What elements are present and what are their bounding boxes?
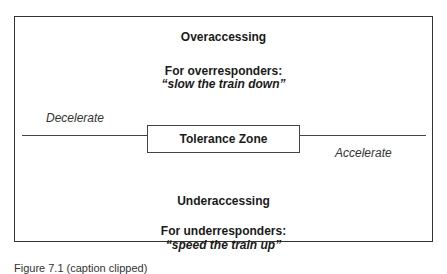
- axis-line-right: [300, 135, 426, 136]
- overresponders-label: For overresponders:: [0, 64, 447, 78]
- overresponders-quote: “slow the train down”: [0, 77, 447, 91]
- underresponders-label: For underresponders:: [0, 224, 447, 238]
- tolerance-zone-box: Tolerance Zone: [147, 125, 300, 153]
- overaccessing-heading: Overaccessing: [0, 30, 447, 44]
- axis-line-left: [22, 135, 147, 136]
- underresponders-quote: “speed the train up”: [0, 238, 447, 252]
- decelerate-label: Decelerate: [46, 111, 104, 125]
- accelerate-label: Accelerate: [335, 146, 392, 160]
- figure-caption: Figure 7.1 (caption clipped): [14, 262, 147, 274]
- underaccessing-heading: Underaccessing: [0, 194, 447, 208]
